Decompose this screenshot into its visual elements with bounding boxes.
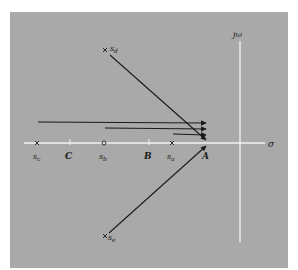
point-C-label: C — [65, 151, 73, 161]
imag-axis-label: jω — [231, 30, 242, 39]
s-plane-figure: σ jω sc C sb B sa A — [0, 0, 298, 270]
test-point-A-label: A — [201, 151, 209, 161]
real-axis-label: σ — [268, 139, 275, 149]
point-B-label: B — [143, 151, 152, 161]
